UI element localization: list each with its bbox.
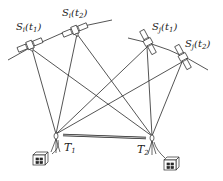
link-lines	[32, 34, 182, 136]
satellite-icon	[61, 21, 89, 41]
satellite-icon	[138, 29, 157, 56]
label-si-t1: Si(t1)	[16, 21, 42, 34]
label-t2: T2	[137, 143, 149, 157]
building-icon	[33, 152, 48, 165]
baseline-link	[63, 135, 146, 138]
antenna-icon	[51, 133, 60, 154]
label-si-t2: Si(t2)	[62, 7, 88, 20]
antenna-icon	[148, 135, 165, 158]
label-sj-t2: Sj(t2)	[185, 38, 210, 51]
satellite-icon	[16, 36, 44, 56]
label-sj-t1: Sj(t1)	[152, 21, 177, 34]
label-t1: T1	[64, 141, 76, 155]
satellite-diagram: Si(t1) Si(t2) Sj(t1) Sj(t2)	[0, 0, 223, 181]
building-icon	[164, 157, 179, 170]
